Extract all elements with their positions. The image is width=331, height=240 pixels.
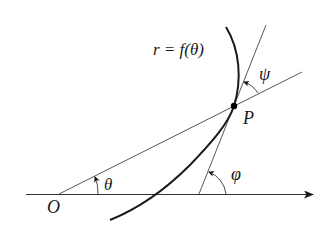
psi-arc: [244, 82, 258, 93]
point-p-dot: [231, 103, 237, 109]
point-p-label: P: [243, 109, 254, 127]
curve-equation-label: r = f(θ): [153, 41, 204, 58]
theta-arc: [95, 177, 98, 194]
origin-label: O: [47, 198, 60, 216]
theta-label: θ: [104, 176, 112, 193]
phi-label: φ: [231, 165, 241, 183]
phi-arc: [209, 172, 226, 194]
radius-line-op: [59, 72, 302, 194]
psi-label: ψ: [259, 65, 270, 83]
